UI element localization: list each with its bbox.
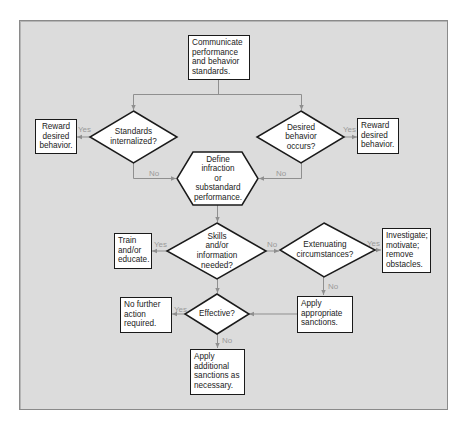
text-skills-needed: Skills and/or information needed? [176,229,258,273]
text-define-infraction: Define infraction or substandard perform… [180,153,256,204]
label-yes-extenuating: Yes [367,239,380,248]
box-reward-right: Reward desired behavior. [357,118,399,154]
box-investigate: Investigate; motivate; remove obstacles. [382,228,431,273]
label-yes-standards: Yes [78,125,91,134]
box-apply-additional: Apply additional sanctions as necessary. [190,349,245,395]
label-yes-desired: Yes [343,125,356,134]
box-communicate: Communicate performance and behavior sta… [188,35,250,80]
label-no-standards: No [149,169,159,178]
text-standards-internalized: Standards internalized? [95,124,172,150]
text-extenuating: Extenuating circumstances? [282,237,368,263]
label-yes-skills: Yes [154,240,167,249]
label-no-effective: No [222,336,232,345]
box-train-educate: Train and/or educate. [114,233,152,269]
box-apply-appropriate: Apply appropriate sanctions. [297,296,353,333]
label-no-extenuating: No [328,282,338,291]
label-no-desired: No [276,169,286,178]
box-no-further-action: No further action required. [120,297,172,333]
text-effective: Effective? [188,307,246,321]
text-desired-behavior: Desired behavior occurs? [265,118,337,156]
label-no-skills: No [267,240,277,249]
label-yes-effective: Yes [174,305,187,314]
box-reward-left: Reward desired behavior. [35,119,77,154]
